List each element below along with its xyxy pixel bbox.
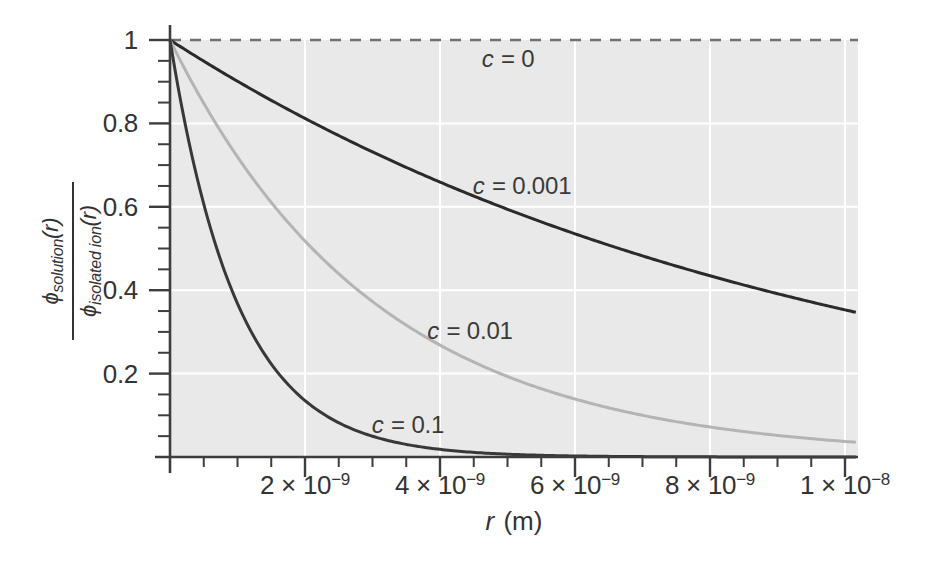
x-tick-label-base: 8 × 10 [665, 470, 736, 500]
x-tick-label-exponent: −9 [601, 470, 620, 489]
x-axis-label: r (m) [434, 506, 594, 536]
x-tick-label-base: 4 × 10 [395, 470, 466, 500]
concentration-value: = 0 [494, 45, 534, 72]
y-tick-label: 0.8 [70, 108, 138, 138]
x-tick-label-base: 1 × 10 [800, 470, 871, 500]
x-tick-label: 4 × 10−9 [370, 470, 510, 504]
x-tick-label-exponent: −9 [331, 470, 350, 489]
concentration-value: = 0.001 [486, 172, 572, 199]
y-axis-label-fraction: ϕsolution(r) ϕisolated ion(r) [44, 176, 102, 346]
fraction-bar [72, 182, 74, 340]
phi-symbol: ϕ [38, 292, 63, 304]
concentration-variable: c [473, 172, 486, 199]
denominator-subscript: isolated ion [87, 226, 104, 305]
x-axis-label-unit: (m) [496, 506, 542, 536]
x-tick-label-exponent: −9 [736, 470, 755, 489]
curve-label-c-0001: c = 0.001 [432, 171, 612, 201]
x-tick-label-base: 2 × 10 [260, 470, 331, 500]
phi-symbol: ϕ [76, 305, 101, 317]
curve-label-c-0: c = 0 [418, 44, 598, 74]
x-tick-label: 2 × 10−9 [235, 470, 375, 504]
concentration-variable: c [482, 45, 495, 72]
concentration-value: = 0.1 [385, 411, 445, 438]
denominator-argument: (r) [76, 205, 101, 226]
y-tick-label: 1 [70, 25, 138, 55]
numerator-subscript: solution [49, 239, 66, 293]
y-axis-label-denominator: ϕisolated ion(r) [76, 205, 108, 317]
curve-label-c-01: c = 0.1 [318, 410, 498, 440]
concentration-variable: c [427, 317, 440, 344]
x-tick-label: 8 × 10−9 [640, 470, 780, 504]
concentration-value: = 0.01 [440, 317, 513, 344]
y-tick-label: 0.2 [70, 359, 138, 389]
x-tick-label-exponent: −9 [466, 470, 485, 489]
figure: 10.80.60.40.22 × 10−94 × 10−96 × 10−98 ×… [0, 0, 927, 568]
x-tick-label-base: 6 × 10 [530, 470, 601, 500]
y-axis-label-numerator: ϕsolution(r) [38, 218, 70, 305]
x-tick-label: 1 × 10−8 [775, 470, 915, 504]
curve-label-c-001: c = 0.01 [380, 316, 560, 346]
x-tick-label-exponent: −8 [871, 470, 890, 489]
concentration-variable: c [372, 411, 385, 438]
x-tick-label: 6 × 10−9 [505, 470, 645, 504]
numerator-argument: (r) [38, 218, 63, 239]
x-axis-label-variable: r [486, 506, 497, 536]
